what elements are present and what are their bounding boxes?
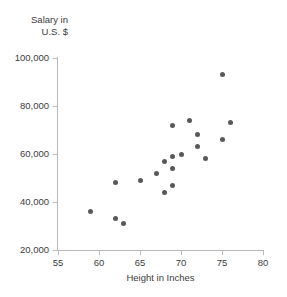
x-tick-label: 55	[43, 258, 73, 268]
plot-area	[58, 58, 263, 250]
x-tick-label: 75	[207, 258, 237, 268]
data-point	[154, 171, 159, 176]
x-axis-line	[57, 250, 264, 251]
y-tick-mark	[53, 202, 57, 203]
y-tick-label: 80,000	[0, 101, 49, 111]
x-tick-mark	[140, 251, 141, 255]
y-tick-label: 40,000	[0, 197, 49, 207]
x-tick-label: 70	[166, 258, 196, 268]
x-tick-label: 65	[125, 258, 155, 268]
x-tick-label: 80	[248, 258, 278, 268]
x-tick-mark	[181, 251, 182, 255]
y-tick-label: 100,000	[0, 53, 49, 63]
data-point	[220, 137, 225, 142]
y-tick-mark	[53, 58, 57, 59]
data-point	[179, 152, 184, 157]
x-tick-mark	[263, 251, 264, 255]
y-tick-mark	[53, 106, 57, 107]
x-tick-mark	[58, 251, 59, 255]
data-point	[138, 178, 143, 183]
data-point	[162, 190, 167, 195]
y-axis-title: Salary in U.S. $	[6, 14, 68, 38]
scatter-chart: Salary in U.S. $ 20,00040,00060,00080,00…	[0, 0, 287, 297]
x-tick-mark	[99, 251, 100, 255]
data-point	[220, 72, 225, 77]
data-point	[162, 159, 167, 164]
x-tick-mark	[222, 251, 223, 255]
data-point	[187, 118, 192, 123]
y-tick-label: 20,000	[0, 245, 49, 255]
x-axis-title: Height in Inches	[58, 272, 263, 283]
y-tick-mark	[53, 154, 57, 155]
y-tick-mark	[53, 250, 57, 251]
x-tick-label: 60	[84, 258, 114, 268]
y-tick-label: 60,000	[0, 149, 49, 159]
